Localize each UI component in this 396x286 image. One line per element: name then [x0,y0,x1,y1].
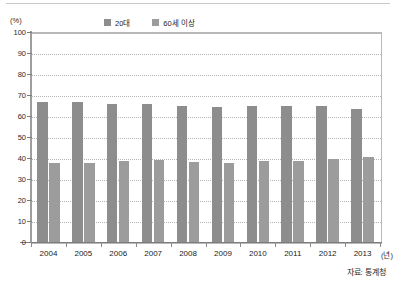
x-tick-mark [345,242,346,247]
y-tick-label-0: 0 [4,238,26,247]
bar-20s-2005 [72,102,83,242]
y-tick-label-40: 40 [4,154,26,163]
bar-20s-2007 [142,104,153,242]
bar-group [31,32,66,242]
x-tick-label-2011: 2011 [284,249,301,258]
y-tick-label-60: 60 [4,112,26,121]
legend-item-20s: 20대 [104,17,130,28]
y-tick-label-50: 50 [4,133,26,142]
bar-group [206,32,241,242]
bar-60plus-2007 [154,160,165,242]
x-axis-tick-labels: 2004200520062007200820092010201120122013 [31,246,380,264]
y-tick-label-100: 100 [4,28,26,37]
x-axis-line [20,242,382,243]
legend-swatch-60plus [152,19,159,26]
bar-group [101,32,136,242]
x-tick-label-2007: 2007 [144,249,162,258]
x-tick-mark [31,242,32,247]
y-tick-label-20: 20 [4,196,26,205]
bar-group [310,32,345,242]
x-tick-mark [206,242,207,247]
source-note: 자료: 통계청 [347,266,386,277]
bar-20s-2006 [107,104,118,242]
bar-group [345,32,380,242]
bar-chart-figure: (%) 20대 60세 이상 0102030405060708090100 20… [0,0,396,286]
y-tick-label-70: 70 [4,91,26,100]
bar-60plus-2008 [189,162,200,242]
x-tick-mark [171,242,172,247]
bar-20s-2013 [351,109,362,242]
x-tick-mark [101,242,102,247]
bar-20s-2012 [316,106,327,242]
bars-layer [31,32,380,242]
bar-60plus-2006 [119,161,130,242]
bar-20s-2004 [37,102,48,242]
bar-20s-2008 [177,106,188,242]
legend-swatch-20s [104,19,111,26]
bar-20s-2011 [281,106,292,242]
x-tick-mark [66,242,67,247]
bar-group [171,32,206,242]
legend-label-20s: 20대 [115,17,130,28]
x-tick-mark [310,242,311,247]
x-tick-mark [275,242,276,247]
x-tick-mark [136,242,137,247]
bar-group [240,32,275,242]
bar-60plus-2005 [84,163,95,242]
x-axis-unit-label: (년) [381,249,393,260]
y-tick-label-90: 90 [4,49,26,58]
x-tick-mark [380,242,381,247]
bar-group [136,32,171,242]
x-tick-label-2010: 2010 [249,249,267,258]
x-tick-label-2013: 2013 [354,249,372,258]
x-tick-label-2012: 2012 [319,249,337,258]
bar-60plus-2011 [293,161,304,242]
legend-label-60plus: 60세 이상 [163,17,194,28]
y-axis-tick-labels: 0102030405060708090100 [0,0,26,286]
x-tick-label-2005: 2005 [74,249,92,258]
top-divider [6,3,390,4]
bar-60plus-2013 [363,157,374,242]
bar-60plus-2010 [259,161,270,242]
bar-20s-2009 [212,107,223,242]
bar-60plus-2009 [224,163,235,242]
y-tick-label-30: 30 [4,175,26,184]
bar-60plus-2012 [328,159,339,242]
bar-group [66,32,101,242]
y-tick-label-80: 80 [4,70,26,79]
x-tick-label-2009: 2009 [214,249,232,258]
bar-60plus-2004 [49,163,60,242]
bar-group [275,32,310,242]
y-tick-label-10: 10 [4,217,26,226]
x-tick-label-2004: 2004 [40,249,58,258]
legend-item-60plus: 60세 이상 [152,17,194,28]
x-tick-label-2006: 2006 [109,249,127,258]
x-tick-mark [240,242,241,247]
bar-20s-2010 [247,106,258,242]
x-tick-label-2008: 2008 [179,249,197,258]
chart-legend: 20대 60세 이상 [104,17,195,28]
